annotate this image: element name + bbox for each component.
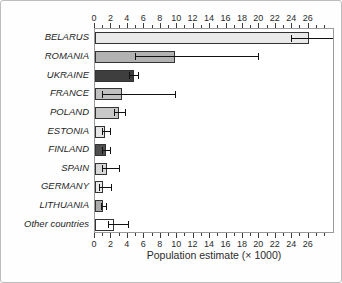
error-bar-romania bbox=[135, 56, 258, 57]
x-major-tick-bottom bbox=[127, 233, 128, 238]
category-label-ukraine: UKRAINE bbox=[3, 69, 89, 81]
x-tick-label-bottom: 26 bbox=[303, 239, 313, 249]
x-minor-tick-bottom bbox=[316, 233, 317, 236]
x-major-tick-bottom bbox=[275, 233, 276, 238]
x-minor-tick-bottom bbox=[299, 233, 300, 236]
x-tick-label-top: 14 bbox=[204, 13, 214, 23]
error-cap-high-france bbox=[175, 91, 176, 98]
category-label-spain: SPAIN bbox=[3, 162, 89, 174]
category-label-germany: GERMANY bbox=[3, 180, 89, 192]
x-minor-tick-bottom bbox=[324, 233, 325, 236]
x-axis-title: Population estimate (× 1000) bbox=[94, 249, 334, 261]
population-estimate-bar-chart-figure: 02468101214161820222426 BELARUSROMANIAUK… bbox=[0, 0, 342, 283]
x-tick-label-bottom: 12 bbox=[188, 239, 198, 249]
x-minor-tick-bottom bbox=[283, 233, 284, 236]
x-tick-label-bottom: 14 bbox=[204, 239, 214, 249]
error-cap-low-poland bbox=[114, 109, 115, 116]
error-cap-high-estonia bbox=[110, 128, 111, 135]
x-tick-label-bottom: 0 bbox=[91, 239, 96, 249]
error-cap-high-spain bbox=[119, 165, 120, 172]
x-tick-label-bottom: 6 bbox=[141, 239, 146, 249]
x-tick-label-bottom: 4 bbox=[124, 239, 129, 249]
plot-area bbox=[94, 28, 334, 233]
x-minor-tick-bottom bbox=[234, 233, 235, 236]
x-major-tick-bottom bbox=[308, 233, 309, 238]
x-major-tick-bottom bbox=[143, 233, 144, 238]
x-minor-tick-bottom bbox=[119, 233, 120, 236]
x-minor-tick-bottom bbox=[267, 233, 268, 236]
x-major-tick-bottom bbox=[193, 233, 194, 238]
category-label-belarus: BELARUS bbox=[3, 31, 89, 43]
error-cap-low-lithuania bbox=[101, 203, 102, 210]
error-cap-high-romania bbox=[258, 53, 259, 60]
x-minor-tick-bottom bbox=[135, 233, 136, 236]
error-cap-high-finland bbox=[110, 147, 111, 154]
x-minor-tick-bottom bbox=[168, 233, 169, 236]
x-tick-label-bottom: 22 bbox=[270, 239, 280, 249]
x-tick-label-top: 2 bbox=[108, 13, 113, 23]
error-cap-high-lithuania bbox=[106, 203, 107, 210]
x-tick-label-bottom: 20 bbox=[253, 239, 263, 249]
error-cap-low-belarus bbox=[291, 35, 292, 42]
error-bar-france bbox=[102, 94, 175, 95]
x-major-tick-bottom bbox=[242, 233, 243, 238]
error-cap-high-ukraine bbox=[138, 72, 139, 79]
x-tick-label-top: 18 bbox=[237, 13, 247, 23]
error-cap-low-finland bbox=[102, 147, 103, 154]
error-cap-low-spain bbox=[102, 165, 103, 172]
x-tick-label-bottom: 16 bbox=[220, 239, 230, 249]
x-tick-label-top: 20 bbox=[253, 13, 263, 23]
x-major-tick-bottom bbox=[94, 233, 95, 238]
x-tick-label-top: 4 bbox=[124, 13, 129, 23]
x-major-tick-bottom bbox=[160, 233, 161, 238]
x-minor-tick-bottom bbox=[152, 233, 153, 236]
error-cap-low-estonia bbox=[102, 128, 103, 135]
bar-belarus bbox=[95, 32, 309, 44]
x-tick-label-bottom: 18 bbox=[237, 239, 247, 249]
x-tick-label-top: 8 bbox=[157, 13, 162, 23]
category-label-estonia: ESTONIA bbox=[3, 125, 89, 137]
category-label-poland: POLAND bbox=[3, 106, 89, 118]
category-label-lithuania: LITHUANIA bbox=[3, 199, 89, 211]
x-major-tick-bottom bbox=[258, 233, 259, 238]
error-cap-high-germany bbox=[111, 184, 112, 191]
x-minor-tick-bottom bbox=[217, 233, 218, 236]
x-minor-tick-bottom bbox=[102, 233, 103, 236]
category-label-romania: ROMANIA bbox=[3, 50, 89, 62]
x-tick-label-bottom: 2 bbox=[108, 239, 113, 249]
x-tick-label-top: 24 bbox=[286, 13, 296, 23]
x-tick-label-bottom: 10 bbox=[171, 239, 181, 249]
error-cap-low-ukraine bbox=[129, 72, 130, 79]
x-minor-tick-bottom bbox=[201, 233, 202, 236]
x-major-tick-bottom bbox=[110, 233, 111, 238]
x-tick-label-top: 6 bbox=[141, 13, 146, 23]
error-cap-low-germany bbox=[99, 184, 100, 191]
error-cap-low-romania bbox=[135, 53, 136, 60]
error-bar-other-countries bbox=[108, 224, 129, 225]
x-major-tick-bottom bbox=[226, 233, 227, 238]
x-tick-label-top: 22 bbox=[270, 13, 280, 23]
x-major-tick-bottom bbox=[176, 233, 177, 238]
error-cap-low-other-countries bbox=[108, 221, 109, 228]
x-minor-tick-bottom bbox=[184, 233, 185, 236]
category-label-finland: FINLAND bbox=[3, 143, 89, 155]
error-bar-belarus bbox=[291, 38, 334, 39]
x-minor-tick-bottom bbox=[250, 233, 251, 236]
x-major-tick-bottom bbox=[209, 233, 210, 238]
x-tick-label-bottom: 8 bbox=[157, 239, 162, 249]
category-label-other-countries: Other countries bbox=[3, 218, 89, 230]
error-cap-low-france bbox=[102, 91, 103, 98]
error-bar-spain bbox=[102, 168, 120, 169]
x-tick-label-bottom: 24 bbox=[286, 239, 296, 249]
category-label-france: FRANCE bbox=[3, 87, 89, 99]
x-tick-label-top: 10 bbox=[171, 13, 181, 23]
x-tick-label-top: 26 bbox=[303, 13, 313, 23]
error-cap-high-other-countries bbox=[128, 221, 129, 228]
x-tick-label-top: 16 bbox=[220, 13, 230, 23]
error-cap-high-poland bbox=[125, 109, 126, 116]
x-tick-label-top: 0 bbox=[91, 13, 96, 23]
x-major-tick-bottom bbox=[291, 233, 292, 238]
x-tick-label-top: 12 bbox=[188, 13, 198, 23]
